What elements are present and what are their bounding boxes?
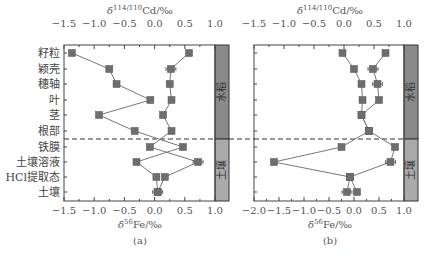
data-point xyxy=(131,128,138,135)
data-point xyxy=(387,159,394,166)
data-point xyxy=(338,144,345,151)
data-point xyxy=(96,112,103,119)
data-point xyxy=(374,81,381,88)
data-point xyxy=(186,50,193,57)
bottom-tick-label: −2.0 xyxy=(242,205,266,216)
data-point xyxy=(166,81,173,88)
bottom-tick-label: −1.0 xyxy=(82,205,106,216)
panel-label: (a) xyxy=(133,235,147,246)
series-line xyxy=(274,53,369,192)
bottom-tick-label: 1.0 xyxy=(396,205,412,216)
top-tick-label: 0.5 xyxy=(366,18,382,29)
bottom-tick-label: −1.5 xyxy=(267,205,291,216)
data-point xyxy=(359,97,366,104)
data-point xyxy=(195,159,202,166)
data-point xyxy=(147,97,154,104)
category-label: 茎 xyxy=(49,109,60,122)
bottom-axis-title: δ56Fe/‰ xyxy=(308,218,352,230)
bottom-axis-title: δ56Fe/‰ xyxy=(118,218,162,230)
data-point xyxy=(160,112,167,119)
data-point xyxy=(153,174,160,181)
category-label: 铁膜 xyxy=(38,141,60,154)
bottom-tick-label: 0.5 xyxy=(177,205,193,216)
top-tick-label: 1.0 xyxy=(207,18,223,29)
category-label: 穗轴 xyxy=(38,77,60,91)
series-line xyxy=(150,53,198,192)
data-point xyxy=(382,50,389,57)
data-point xyxy=(113,81,120,88)
band-soil-label: 土壤 xyxy=(215,160,227,180)
plot-frame xyxy=(254,45,404,201)
data-point xyxy=(179,144,186,151)
category-label: 土壤溶液 xyxy=(16,155,60,169)
top-tick-label: −0.5 xyxy=(112,18,136,29)
data-point xyxy=(358,112,365,119)
data-point xyxy=(146,144,153,151)
data-point xyxy=(370,66,377,73)
top-tick-label: −1.0 xyxy=(82,18,106,29)
data-point xyxy=(351,66,358,73)
data-point xyxy=(154,189,161,196)
top-tick-label: 1.0 xyxy=(396,18,412,29)
band-rice-label: 水稻 xyxy=(405,82,416,102)
data-point xyxy=(358,81,365,88)
data-point xyxy=(376,97,383,104)
bottom-tick-label: −1.5 xyxy=(52,205,76,216)
data-point xyxy=(271,159,278,166)
top-tick-label: 0.0 xyxy=(336,18,352,29)
data-point xyxy=(339,50,346,57)
data-point xyxy=(392,144,399,151)
bottom-tick-label: −1.0 xyxy=(292,205,316,216)
panel-b: 水稻土壤−1.5−1.0−0.50.00.51.0−2.0−1.5−1.0−0.… xyxy=(242,4,418,246)
data-point xyxy=(347,174,354,181)
top-tick-label: −1.5 xyxy=(52,18,76,29)
band-rice-label: 水稻 xyxy=(216,82,227,102)
bottom-tick-label: −0.5 xyxy=(317,205,341,216)
top-tick-label: 0.5 xyxy=(177,18,193,29)
bottom-tick-label: 0.0 xyxy=(346,205,362,216)
data-point xyxy=(366,128,373,135)
top-axis-title: δ114/110Cd/‰ xyxy=(297,4,363,16)
panel-a: 水稻土壤−1.5−1.0−0.50.00.51.0−1.5−1.0−0.50.0… xyxy=(5,4,254,246)
bottom-tick-label: −0.5 xyxy=(112,205,136,216)
category-label: 根部 xyxy=(38,124,60,138)
top-tick-label: 0.0 xyxy=(147,18,163,29)
figure-svg: 水稻土壤−1.5−1.0−0.50.00.51.0−1.5−1.0−0.50.0… xyxy=(0,0,432,263)
band-soil-label: 土壤 xyxy=(404,160,416,180)
top-tick-label: −1.0 xyxy=(272,18,296,29)
bottom-tick-label: 0.0 xyxy=(147,205,163,216)
data-point xyxy=(133,159,140,166)
series-line xyxy=(72,53,183,192)
data-point xyxy=(68,50,75,57)
data-point xyxy=(354,189,361,196)
data-point xyxy=(344,189,351,196)
panel-label: (b) xyxy=(323,235,337,246)
bottom-tick-label: 0.5 xyxy=(371,205,387,216)
top-tick-label: −0.5 xyxy=(302,18,326,29)
data-point xyxy=(161,174,168,181)
category-label: 土壤 xyxy=(38,185,60,199)
category-label: 籽粒 xyxy=(38,46,60,60)
category-label: 叶 xyxy=(49,94,60,107)
top-axis-title: δ114/110Cd/‰ xyxy=(107,4,173,16)
category-label: 颖壳 xyxy=(38,62,60,76)
top-tick-label: −1.5 xyxy=(242,18,266,29)
data-point xyxy=(168,97,175,104)
data-point xyxy=(167,66,174,73)
isotope-figure: 水稻土壤−1.5−1.0−0.50.00.51.0−1.5−1.0−0.50.0… xyxy=(0,0,432,263)
category-label: HCl提取态 xyxy=(5,171,60,184)
data-point xyxy=(168,128,175,135)
data-point xyxy=(106,66,113,73)
bottom-tick-label: 1.0 xyxy=(207,205,223,216)
plot-frame xyxy=(64,45,215,201)
